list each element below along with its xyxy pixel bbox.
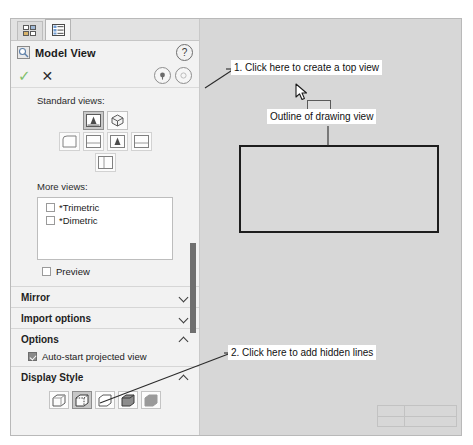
- display-style-hidden-lines-visible-button[interactable]: [72, 391, 92, 409]
- feature-manager-tab[interactable]: [17, 21, 43, 40]
- standard-views-row-2: [11, 132, 199, 151]
- panel-body: Standard views:: [11, 88, 199, 435]
- front-view-icon: [86, 114, 101, 127]
- help-button[interactable]: ?: [176, 44, 193, 61]
- list-item-label: *Dimetric: [59, 215, 98, 226]
- wireframe-icon: [52, 394, 66, 407]
- standard-view-front-alt-button[interactable]: [107, 132, 128, 151]
- shaded-with-edges-icon: [121, 394, 135, 407]
- section-title: Options: [21, 334, 59, 345]
- trimetric-checkbox[interactable]: [46, 203, 55, 212]
- section-options[interactable]: Options: [11, 328, 199, 349]
- model-view-icon: [17, 46, 30, 59]
- auto-start-projected-view-label: Auto-start projected view: [42, 351, 147, 362]
- standard-views-grid: [11, 111, 199, 172]
- list-item[interactable]: *Dimetric: [42, 214, 168, 226]
- list-item-label: *Trimetric: [59, 202, 99, 213]
- cancel-button[interactable]: ✕: [42, 69, 54, 83]
- sheet-title-block: [377, 405, 457, 427]
- standard-view-right-button[interactable]: [131, 132, 152, 151]
- tree-grid-icon: [23, 25, 37, 37]
- section-import-options[interactable]: Import options: [11, 307, 199, 328]
- panel-action-bar: ✓ ✕: [11, 64, 199, 88]
- callout-step-2: 2. Click here to add hidden lines: [228, 345, 376, 360]
- section-title: Display Style: [21, 372, 83, 383]
- right-view-icon: [134, 135, 149, 148]
- chevron-down-icon: [179, 292, 190, 303]
- chevron-down-icon: [179, 313, 190, 324]
- panel-header: Model View ?: [11, 41, 199, 64]
- display-style-buttons: [11, 387, 199, 409]
- section-mirror[interactable]: Mirror: [11, 286, 199, 307]
- hidden-lines-visible-icon: [75, 394, 89, 407]
- collapse-icon: [179, 71, 188, 80]
- collapse-button[interactable]: [175, 67, 192, 84]
- drawing-canvas[interactable]: [200, 19, 461, 435]
- page-title: Model View: [35, 47, 96, 59]
- more-views-listbox[interactable]: *Trimetric *Dimetric: [37, 197, 173, 260]
- standard-view-left-button[interactable]: [59, 132, 80, 151]
- panel-scrollbar-thumb[interactable]: [190, 243, 196, 333]
- standard-views-label: Standard views:: [37, 95, 199, 106]
- property-manager-panel: Model View ? ✓ ✕ Sta: [11, 19, 200, 435]
- keep-visible-button[interactable]: [154, 67, 171, 84]
- standard-view-bottom-button[interactable]: [95, 153, 116, 172]
- standard-view-top-button[interactable]: [83, 132, 104, 151]
- chevron-up-icon: [179, 372, 190, 383]
- display-style-shaded-button[interactable]: [141, 391, 161, 409]
- section-title: Mirror: [21, 292, 50, 303]
- section-title: Import options: [21, 313, 91, 324]
- callout-step-1: 1. Click here to create a top view: [231, 60, 382, 75]
- display-style-wireframe-button[interactable]: [49, 391, 69, 409]
- chevron-up-icon: [179, 334, 190, 345]
- standard-view-isometric-button[interactable]: [107, 111, 128, 130]
- callout-outline-label: Outline of drawing view: [267, 109, 376, 124]
- shaded-icon: [144, 394, 158, 407]
- isometric-view-icon: [110, 114, 125, 127]
- drawing-view-outline: [239, 145, 439, 233]
- preview-checkbox[interactable]: [42, 267, 51, 276]
- list-item[interactable]: *Trimetric: [42, 201, 168, 213]
- section-display-style[interactable]: Display Style: [11, 366, 199, 387]
- display-style-hidden-lines-removed-button[interactable]: [95, 391, 115, 409]
- bottom-view-icon: [98, 156, 113, 169]
- front-alt-view-icon: [110, 135, 125, 148]
- left-view-icon: [62, 135, 77, 148]
- auto-start-projected-view-checkbox[interactable]: [28, 352, 37, 361]
- standard-views-row-1: [11, 111, 199, 130]
- property-manager-tab[interactable]: [45, 19, 71, 40]
- preview-label: Preview: [56, 266, 90, 277]
- more-views-label: More views:: [37, 181, 199, 192]
- standard-view-front-button[interactable]: [83, 111, 104, 130]
- hidden-lines-removed-icon: [98, 394, 112, 407]
- display-style-shaded-with-edges-button[interactable]: [118, 391, 138, 409]
- top-view-icon: [86, 135, 101, 148]
- accept-button[interactable]: ✓: [18, 68, 31, 83]
- dimetric-checkbox[interactable]: [46, 216, 55, 225]
- property-list-icon: [52, 24, 65, 36]
- solidworks-window: Model View ? ✓ ✕ Sta: [10, 18, 462, 436]
- preview-option-row[interactable]: Preview: [37, 266, 199, 277]
- arrow-cursor-icon: [295, 83, 311, 103]
- panel-tab-strip: [11, 19, 199, 41]
- pushpin-icon: [158, 71, 167, 80]
- standard-views-row-3: [11, 153, 199, 172]
- auto-start-projected-view-row[interactable]: Auto-start projected view: [11, 349, 199, 366]
